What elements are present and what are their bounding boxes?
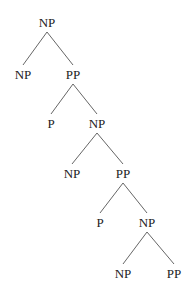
tree-node-pp: PP xyxy=(116,166,130,181)
tree-node-pp: PP xyxy=(167,266,181,281)
tree-edge xyxy=(100,183,123,213)
tree-node-np: NP xyxy=(15,67,32,82)
tree-node-np: NP xyxy=(64,166,81,181)
tree-edge xyxy=(147,232,174,264)
tree-node-np: NP xyxy=(89,116,106,131)
tree-node-np: NP xyxy=(115,266,132,281)
tree-edge xyxy=(72,133,97,164)
syntax-tree-diagram: NPNPPPPNPNPPPPNPNPPP xyxy=(0,0,193,296)
tree-node-np: NP xyxy=(139,215,156,230)
tree-edge xyxy=(73,84,97,114)
tree-edge xyxy=(97,133,123,164)
tree-edge xyxy=(123,232,147,264)
tree-edge xyxy=(23,32,47,65)
tree-edge xyxy=(47,32,73,65)
tree-node-pp: PP xyxy=(66,67,80,82)
tree-edge xyxy=(51,84,73,114)
tree-svg: NPNPPPPNPNPPPPNPNPPP xyxy=(0,0,193,296)
tree-node-p: P xyxy=(47,116,54,131)
tree-node-p: P xyxy=(96,215,103,230)
tree-edge xyxy=(123,183,147,213)
tree-nodes: NPNPPPPNPNPPPPNPNPPP xyxy=(15,15,182,281)
tree-node-np: NP xyxy=(39,15,56,30)
